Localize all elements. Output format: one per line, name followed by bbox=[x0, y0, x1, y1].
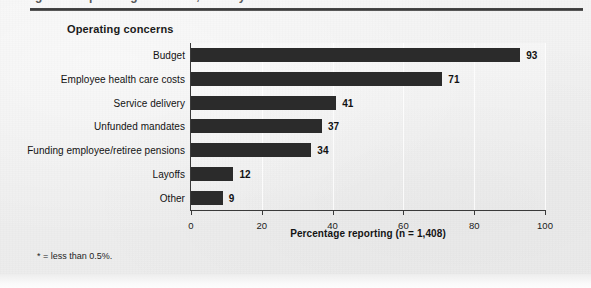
bar bbox=[191, 191, 223, 205]
bar-value-label: 71 bbox=[448, 73, 459, 84]
bar bbox=[191, 143, 311, 157]
top-rule-divider bbox=[30, 8, 583, 11]
x-axis-tick bbox=[191, 210, 192, 215]
bar bbox=[191, 96, 336, 110]
category-label: Unfunded mandates bbox=[94, 121, 185, 132]
bar-row: Employee health care costs71 bbox=[191, 67, 545, 91]
bar-value-label: 34 bbox=[317, 145, 328, 156]
chart-figure: Operating concerns 020406080100Budget93E… bbox=[30, 13, 583, 271]
bar bbox=[191, 119, 322, 133]
x-axis-tick bbox=[403, 210, 404, 215]
bar-value-label: 93 bbox=[526, 49, 537, 60]
category-label: Budget bbox=[153, 49, 185, 60]
x-axis-tick bbox=[262, 210, 263, 215]
bar-value-label: 12 bbox=[239, 169, 250, 180]
x-axis-tick bbox=[545, 210, 546, 215]
category-label: Employee health care costs bbox=[61, 73, 185, 84]
page-bottom-edge bbox=[0, 274, 591, 288]
figure-footnote: * = less than 0.5%. bbox=[37, 251, 112, 261]
plot-area: 020406080100Budget93Employee health care… bbox=[191, 43, 545, 210]
x-axis-title: Percentage reporting (n = 1,408) bbox=[191, 228, 545, 239]
clipped-headline: Figure 3. Operating concerns, fiscal yea… bbox=[0, 0, 591, 7]
bar-row: Layoffs12 bbox=[191, 162, 545, 186]
bar-row: Other9 bbox=[191, 186, 545, 210]
category-label: Funding employee/retiree pensions bbox=[27, 145, 185, 156]
clipped-headline-text: Figure 3. Operating concerns, fiscal yea… bbox=[24, 0, 264, 3]
bar bbox=[191, 167, 233, 181]
bar bbox=[191, 72, 442, 86]
bar-value-label: 9 bbox=[229, 193, 235, 204]
x-axis-line bbox=[190, 210, 545, 211]
category-label: Other bbox=[160, 193, 185, 204]
category-label: Service delivery bbox=[114, 97, 185, 108]
category-label: Layoffs bbox=[153, 169, 185, 180]
gridline bbox=[545, 43, 546, 210]
bar bbox=[191, 48, 520, 62]
x-axis-tick bbox=[333, 210, 334, 215]
x-axis-tick bbox=[474, 210, 475, 215]
bar-value-label: 41 bbox=[342, 97, 353, 108]
bar-row: Service delivery41 bbox=[191, 91, 545, 115]
bar-row: Funding employee/retiree pensions34 bbox=[191, 138, 545, 162]
bar-row: Unfunded mandates37 bbox=[191, 115, 545, 139]
bar-value-label: 37 bbox=[328, 121, 339, 132]
bar-row: Budget93 bbox=[191, 43, 545, 67]
chart-section-title: Operating concerns bbox=[67, 23, 174, 35]
